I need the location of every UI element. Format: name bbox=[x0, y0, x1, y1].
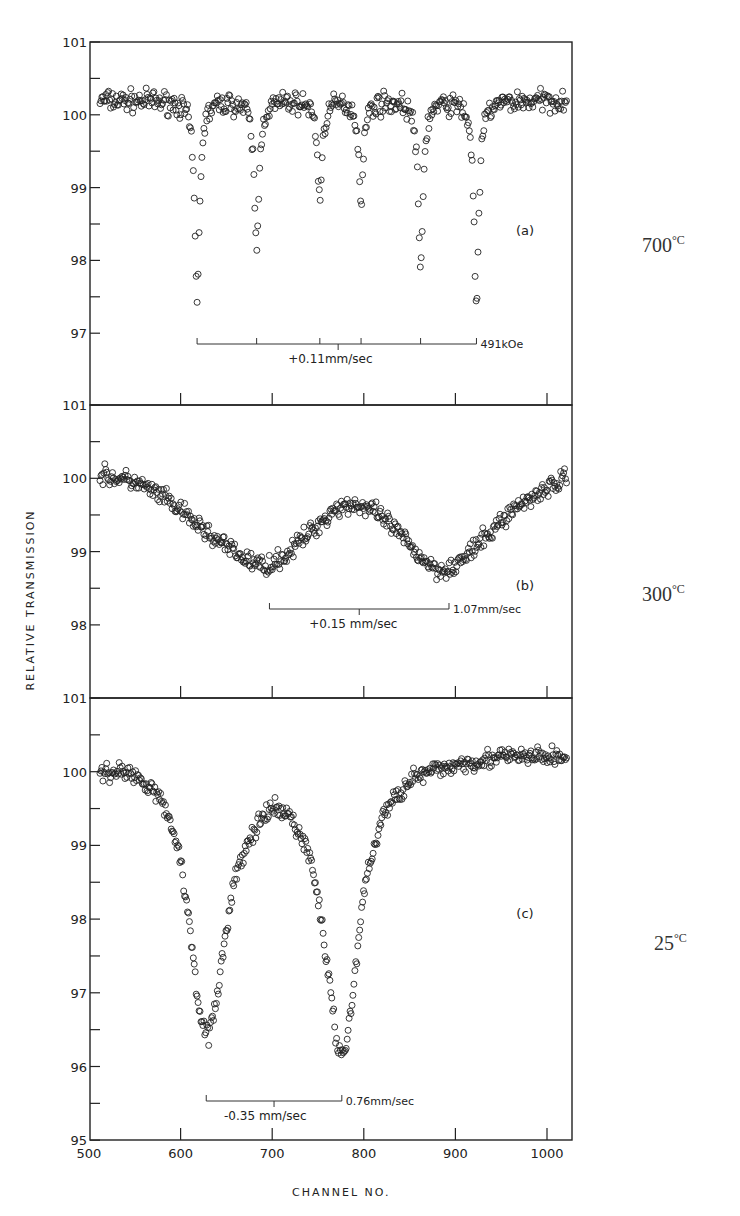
data-point bbox=[316, 187, 322, 193]
x-tick-label: 1000 bbox=[530, 1146, 563, 1161]
data-point bbox=[319, 155, 325, 161]
data-point bbox=[180, 872, 186, 878]
y-tick-label: 99 bbox=[70, 838, 87, 853]
data-point bbox=[255, 223, 261, 229]
data-point bbox=[477, 189, 483, 195]
data-point bbox=[508, 107, 514, 113]
data-point bbox=[344, 1036, 350, 1042]
data-point bbox=[200, 140, 206, 146]
data-point bbox=[364, 117, 370, 123]
y-tick-label: 100 bbox=[62, 108, 87, 123]
x-tick-label: 600 bbox=[168, 1146, 193, 1161]
data-point bbox=[289, 537, 295, 543]
data-point bbox=[313, 140, 319, 146]
data-point bbox=[293, 92, 299, 98]
temperature-label-b: 300°C bbox=[642, 582, 685, 606]
data-point bbox=[192, 233, 198, 239]
x-tick-label: 900 bbox=[443, 1146, 468, 1161]
data-point bbox=[320, 930, 326, 936]
data-point bbox=[424, 136, 430, 142]
data-point bbox=[199, 154, 205, 160]
data-point bbox=[186, 919, 192, 925]
data-point bbox=[217, 969, 223, 975]
data-point bbox=[197, 198, 203, 204]
data-point bbox=[485, 746, 491, 752]
data-point bbox=[124, 107, 130, 113]
y-tick-label: 97 bbox=[70, 326, 87, 341]
bracket-center-label: +0.11mm/sec bbox=[288, 352, 372, 366]
data-point bbox=[466, 128, 472, 134]
data-point bbox=[434, 577, 440, 583]
plot-frame-c bbox=[90, 698, 572, 1140]
data-point bbox=[467, 134, 473, 140]
panel-label-b: (b) bbox=[516, 578, 534, 593]
data-point bbox=[277, 566, 283, 572]
data-point bbox=[191, 961, 197, 967]
temperature-label-a: 700°C bbox=[642, 233, 685, 257]
data-point bbox=[411, 765, 417, 771]
data-point bbox=[422, 149, 428, 155]
data-point bbox=[354, 961, 360, 967]
data-point bbox=[415, 201, 421, 207]
data-point bbox=[216, 982, 222, 988]
bracket-center-label: -0.35 mm/sec bbox=[224, 1109, 307, 1123]
data-point bbox=[349, 1002, 355, 1008]
data-point bbox=[311, 872, 317, 878]
y-tick-label: 100 bbox=[62, 471, 87, 486]
data-point bbox=[198, 174, 204, 180]
data-point bbox=[254, 247, 260, 253]
mossbauer-figure: 101100999897(a)491kOe+0.11mm/sec10110099… bbox=[0, 0, 740, 1216]
data-point bbox=[252, 205, 258, 211]
data-point bbox=[219, 951, 225, 957]
data-point bbox=[337, 514, 343, 520]
data-point bbox=[192, 969, 198, 975]
data-point bbox=[100, 482, 106, 488]
data-point bbox=[426, 126, 432, 132]
data-point bbox=[190, 168, 196, 174]
data-point bbox=[222, 933, 228, 939]
data-point bbox=[187, 928, 193, 934]
data-point bbox=[153, 798, 159, 804]
data-point bbox=[323, 125, 329, 131]
data-point bbox=[564, 480, 570, 486]
data-point bbox=[549, 743, 555, 749]
data-point bbox=[352, 968, 358, 974]
temperature-label-c: 25°C bbox=[654, 931, 687, 955]
data-point bbox=[248, 133, 254, 139]
y-tick-label: 97 bbox=[70, 986, 87, 1001]
data-point bbox=[417, 264, 423, 270]
data-point bbox=[228, 895, 234, 901]
data-point bbox=[378, 114, 384, 120]
y-tick-label: 100 bbox=[62, 765, 87, 780]
bracket-right-label: 0.76mm/sec bbox=[346, 1095, 414, 1108]
data-point bbox=[332, 1024, 338, 1030]
data-point bbox=[317, 197, 323, 203]
data-point bbox=[339, 93, 345, 99]
data-point bbox=[345, 511, 351, 517]
data-point bbox=[470, 193, 476, 199]
plot-frame-b bbox=[90, 405, 572, 698]
data-point bbox=[206, 1042, 212, 1048]
data-point bbox=[414, 164, 420, 170]
data-point bbox=[360, 172, 366, 178]
data-point bbox=[189, 154, 195, 160]
y-tick-label: 96 bbox=[70, 1060, 87, 1075]
data-point bbox=[258, 146, 264, 152]
data-point bbox=[178, 112, 184, 118]
bracket-right-label: 1.07mm/sec bbox=[453, 603, 521, 616]
data-point bbox=[420, 194, 426, 200]
data-point bbox=[399, 90, 405, 96]
data-point bbox=[191, 195, 197, 201]
data-point bbox=[236, 96, 242, 102]
data-point bbox=[209, 110, 215, 116]
data-point bbox=[128, 86, 134, 92]
bracket-right-label: 491kOe bbox=[480, 338, 523, 351]
data-point bbox=[331, 1006, 337, 1012]
data-point bbox=[194, 299, 200, 305]
data-point bbox=[416, 235, 422, 241]
data-point bbox=[357, 179, 363, 185]
data-point bbox=[419, 229, 425, 235]
data-point bbox=[359, 202, 365, 208]
data-point bbox=[100, 778, 106, 784]
data-point bbox=[272, 795, 278, 801]
